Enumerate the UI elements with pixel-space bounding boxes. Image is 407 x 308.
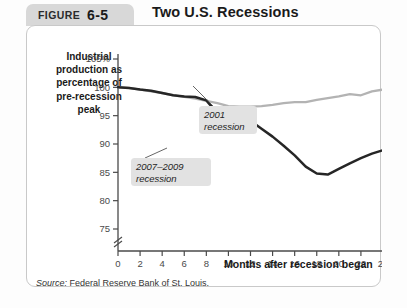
source-label: Source: (36, 278, 67, 288)
y-tick-label: 75 (99, 223, 110, 234)
x-tick-label: 8 (204, 258, 209, 269)
x-tick-label: 6 (182, 258, 187, 269)
figure-title: Two U.S. Recessions (152, 4, 299, 20)
callout-leader-1 (145, 148, 167, 158)
figure-tab-number: 6-5 (87, 7, 108, 23)
figure-container: FIGURE 6-5 Two U.S. Recessions Industria… (0, 0, 407, 308)
callout-label-0-line-0: 2001 (203, 109, 225, 120)
x-tick-label: 4 (160, 258, 165, 269)
y-tick-label: 95 (99, 110, 110, 121)
figure-panel: Industrial production as percentage of p… (26, 25, 381, 287)
figure-tab-word: FIGURE (38, 9, 80, 21)
callout-label-1-line-1: recession (136, 173, 177, 184)
y-tick-label: 80 (99, 195, 110, 206)
x-tick-label: 0 (115, 258, 120, 269)
y-tick-label: 105% (86, 53, 111, 64)
y-tick-label: 90 (99, 138, 110, 149)
source-note: Source: Federal Reserve Bank of St. Loui… (36, 278, 209, 288)
y-tick-label: 85 (99, 167, 110, 178)
series-line-2001 (118, 87, 382, 106)
callout-label-0-line-1: recession (204, 121, 245, 132)
source-value: Federal Reserve Bank of St. Louis. (67, 278, 209, 288)
x-tick-label: 2 (137, 258, 142, 269)
x-tick-label: 24 (378, 258, 382, 269)
figure-tab: FIGURE 6-5 (26, 4, 134, 26)
y-tick-label: 100 (94, 82, 110, 93)
line-chart-plot: 7580859095100105%02468101214161820222420… (27, 26, 382, 288)
callout-label-1-line-0: 2007–2009 (135, 161, 184, 172)
x-axis-title: Months after recession began (224, 258, 373, 270)
